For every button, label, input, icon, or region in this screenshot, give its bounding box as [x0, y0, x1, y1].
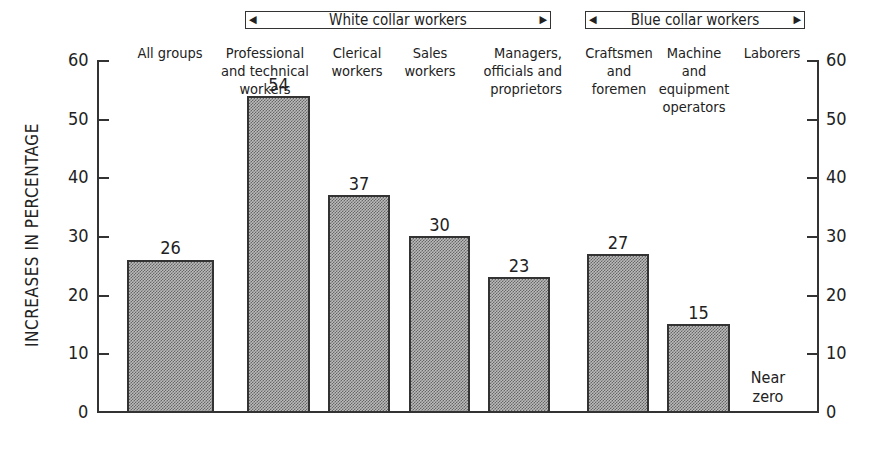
bar-managers — [488, 277, 550, 413]
left-tick — [97, 295, 109, 297]
category-label-machine: Machine and equipment operators — [650, 44, 738, 116]
right-tick — [807, 60, 819, 62]
left-tick-label: 10 — [68, 343, 89, 363]
right-tick-label: 10 — [826, 343, 847, 363]
right-tick-label: 30 — [826, 226, 847, 246]
bar-professional — [247, 96, 310, 413]
bar-value-label: 30 — [409, 215, 470, 235]
right-tick — [807, 353, 819, 355]
right-tick-label: 20 — [826, 285, 847, 305]
category-label-sales: Sales workers — [397, 44, 463, 80]
blue-collar-label: Blue collar workers — [631, 11, 759, 29]
bar-value-label: 27 — [587, 233, 649, 253]
left-tick-label: 0 — [78, 402, 88, 422]
category-label-laborers: Laborers — [734, 44, 810, 62]
bar-craftsmen — [587, 254, 649, 413]
bar-clerical — [328, 195, 390, 413]
bar-value-label: 23 — [488, 256, 550, 276]
category-label-craftsmen: Craftsmen and foremen — [577, 44, 661, 98]
right-tick-label: 60 — [826, 50, 847, 70]
bar-machine-operators — [667, 324, 730, 413]
right-tick — [807, 119, 819, 121]
arrow-right-icon: ▶ — [539, 12, 547, 28]
laborers-near-zero-note: Near zero — [740, 368, 796, 406]
bar-value-label: 26 — [127, 238, 214, 258]
right-tick — [807, 177, 819, 179]
category-label-clerical: Clerical workers — [322, 44, 392, 80]
white-collar-label: White collar workers — [329, 11, 467, 29]
bar-sales — [409, 236, 470, 413]
left-tick-label: 30 — [68, 226, 89, 246]
left-tick — [97, 60, 109, 62]
left-tick — [97, 119, 109, 121]
left-tick-label: 40 — [68, 167, 89, 187]
arrow-left-icon: ◀ — [589, 12, 597, 28]
left-tick-label: 50 — [68, 109, 89, 129]
arrow-left-icon: ◀ — [249, 12, 257, 28]
left-tick-label: 60 — [68, 50, 89, 70]
right-tick — [807, 295, 819, 297]
right-tick — [807, 236, 819, 238]
white-collar-group-box: ◀ White collar workers ▶ — [245, 11, 551, 29]
bar-all-groups — [127, 260, 214, 413]
right-tick-label: 0 — [826, 402, 836, 422]
y-axis-label: INCREASES IN PERCENTAGE — [22, 105, 42, 365]
right-tick-label: 40 — [826, 167, 847, 187]
bar-value-label: 37 — [328, 174, 390, 194]
bar-value-label: 15 — [667, 303, 730, 323]
left-tick — [97, 236, 109, 238]
category-label-all-groups: All groups — [120, 44, 220, 62]
right-tick-label: 50 — [826, 109, 847, 129]
blue-collar-group-box: ◀ Blue collar workers ▶ — [585, 11, 805, 29]
arrow-right-icon: ▶ — [793, 12, 801, 28]
left-tick — [97, 177, 109, 179]
left-tick-label: 20 — [68, 285, 89, 305]
category-label-managers: Managers, officials and proprietors — [462, 44, 562, 98]
bar-value-label: 54 — [247, 75, 310, 95]
left-tick — [97, 353, 109, 355]
